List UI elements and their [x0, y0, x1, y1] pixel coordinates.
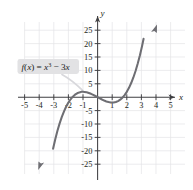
y-tick-label: 15: [84, 53, 92, 62]
y-tick-label: 25: [84, 26, 92, 35]
y-tick-label: -15: [81, 133, 92, 142]
y-tick-label: -20: [81, 147, 92, 156]
x-tick-label: -3: [50, 101, 57, 110]
x-tick-label: 5: [169, 101, 173, 110]
y-tick-label: -10: [81, 120, 92, 129]
y-axis-label: y: [100, 8, 105, 18]
y-tick-label: 10: [84, 66, 92, 75]
function-label-annotation: f(x) = x3 − 3x: [18, 59, 80, 74]
cartesian-plot: -5 -4 -3 -2 -1 1 2 3 4 5 25 20 15 10 5 -…: [0, 0, 193, 190]
function-label-text: f(x) = x3 − 3x: [22, 61, 71, 72]
y-tick-label: -5: [85, 107, 92, 116]
x-axis-label: x: [178, 92, 183, 102]
x-tick-label: 3: [139, 101, 143, 110]
x-tick-label: 2: [125, 101, 129, 110]
y-tick-label: -25: [81, 160, 92, 169]
function-graph-figure: -5 -4 -3 -2 -1 1 2 3 4 5 25 20 15 10 5 -…: [0, 0, 193, 190]
x-tick-label: -5: [21, 101, 28, 110]
y-tick-label: 5: [88, 80, 92, 89]
plot-background: [0, 0, 193, 190]
y-tick-label: 20: [84, 40, 92, 49]
x-tick-label: -4: [36, 101, 44, 110]
